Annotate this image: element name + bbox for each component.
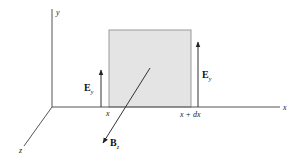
z-axis-label: z	[18, 146, 23, 155]
e-left-label: Ey	[84, 82, 94, 95]
marker-x-plus-dx: x + dx	[179, 110, 201, 119]
b-label: Bz	[110, 137, 120, 150]
marker-x: x	[105, 109, 110, 118]
y-axis-label: y	[55, 8, 60, 17]
diagram-canvas: y x z Ey Ey Bz x x + dx	[0, 0, 300, 157]
z-axis	[24, 107, 52, 146]
e-right-label: Ey	[202, 69, 212, 82]
x-axis-label: x	[282, 103, 287, 112]
